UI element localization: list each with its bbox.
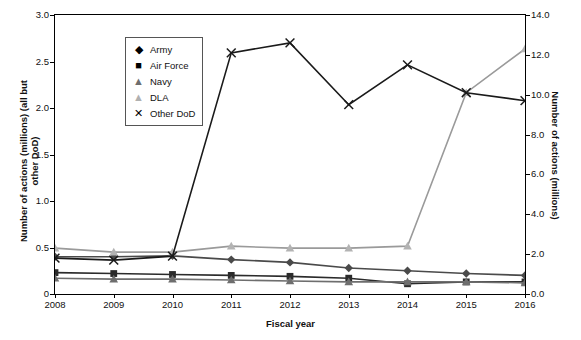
y-tick-right-5: 10.0	[531, 89, 575, 100]
y-tick-right-6: 12.0	[531, 49, 575, 60]
y-tick-right-2: 4.0	[531, 208, 575, 219]
y-tick-left-2: 1.0	[9, 195, 49, 206]
y-tick-right-4: 8.0	[531, 129, 575, 140]
y-tick-mark-right-7	[526, 15, 530, 16]
data-point-x	[344, 100, 353, 109]
square-icon: ■	[131, 60, 146, 71]
x-icon: ✕	[131, 108, 146, 119]
y-tick-mark-right-6	[526, 55, 530, 56]
legend-label-army: Army	[150, 44, 172, 55]
x-tick-2016: 2016	[503, 299, 547, 310]
diamond-icon: ◆	[131, 44, 146, 55]
x-tick-2015: 2015	[444, 299, 488, 310]
plot-area: ◆ Army ■ Air Force ▲ Navy ▲ DLA ✕ Other …	[54, 14, 526, 295]
x-tick-2010: 2010	[151, 299, 195, 310]
chart-legend: ◆ Army ■ Air Force ▲ Navy ▲ DLA ✕ Other …	[125, 37, 203, 126]
data-point-x	[403, 60, 412, 69]
y-tick-right-7: 14.0	[531, 9, 575, 20]
legend-label-dla: DLA	[150, 92, 168, 103]
data-point-triangle-light	[521, 45, 525, 53]
triangle-icon: ▲	[131, 76, 146, 87]
y-tick-right-3: 6.0	[531, 168, 575, 179]
data-point-diamond	[286, 258, 294, 266]
legend-item-other-dod: ✕ Other DoD	[131, 105, 195, 121]
x-tick-2008: 2008	[33, 299, 77, 310]
y-tick-mark-right-3	[526, 174, 530, 175]
y-tick-mark-right-2	[526, 214, 530, 215]
y-tick-left-4: 2.0	[9, 102, 49, 113]
y-tick-left-1: 0.5	[9, 242, 49, 253]
data-point-diamond	[521, 271, 525, 279]
legend-item-army: ◆ Army	[131, 41, 195, 57]
data-point-diamond	[462, 269, 470, 277]
legend-label-other-dod: Other DoD	[150, 108, 195, 119]
y-tick-mark-right-1	[526, 254, 530, 255]
y-tick-right-0: 0.0	[531, 288, 575, 299]
legend-item-navy: ▲ Navy	[131, 73, 195, 89]
y-tick-right-1: 2.0	[531, 248, 575, 259]
y-tick-mark-right-5	[526, 95, 530, 96]
x-tick-2012: 2012	[268, 299, 312, 310]
x-tick-2013: 2013	[327, 299, 371, 310]
x-tick-2014: 2014	[386, 299, 430, 310]
y-tick-left-6: 3.0	[9, 9, 49, 20]
y-tick-mark-right-0	[526, 294, 530, 295]
chart-container: Number of actions (millions) (all but ot…	[0, 0, 581, 340]
y-axis-right-title-line1: Number of actions (millions)	[550, 91, 561, 219]
data-point-diamond	[345, 264, 353, 272]
legend-label-air-force: Air Force	[150, 60, 189, 71]
data-point-diamond	[227, 255, 235, 263]
x-axis-title: Fiscal year	[0, 318, 581, 329]
y-tick-left-0: 0	[9, 288, 49, 299]
legend-label-navy: Navy	[150, 76, 172, 87]
y-tick-left-5: 2.5	[9, 56, 49, 67]
y-tick-mark-right-4	[526, 135, 530, 136]
legend-item-air-force: ■ Air Force	[131, 57, 195, 73]
data-point-diamond	[403, 267, 411, 275]
x-tick-2011: 2011	[209, 299, 253, 310]
y-tick-left-3: 1.5	[9, 149, 49, 160]
triangle-light-icon: ▲	[131, 92, 146, 103]
legend-item-dla: ▲ DLA	[131, 89, 195, 105]
x-tick-2009: 2009	[92, 299, 136, 310]
